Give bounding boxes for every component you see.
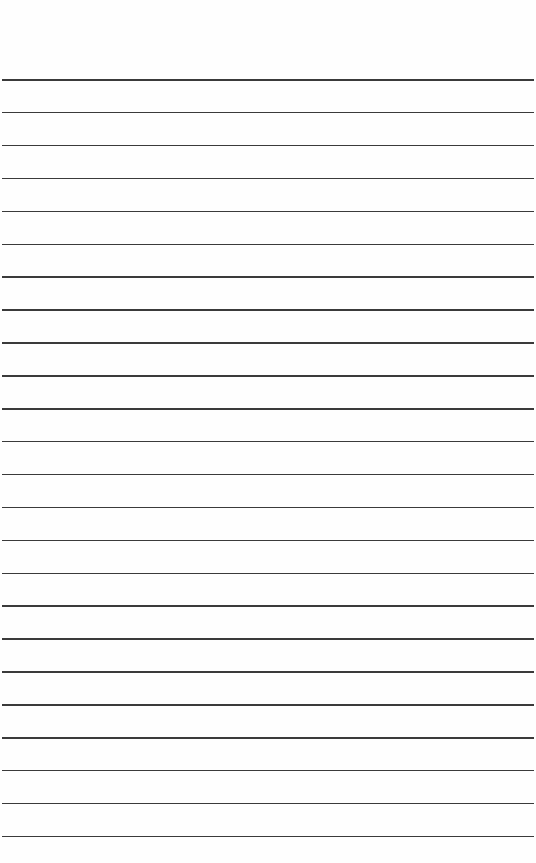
ruled-line: [2, 375, 534, 377]
ruled-line: [2, 605, 534, 607]
ruled-line: [2, 704, 534, 706]
ruled-line: [2, 178, 534, 180]
ruled-line: [2, 507, 534, 509]
ruled-line: [2, 211, 534, 213]
ruled-line: [2, 244, 534, 246]
ruled-line: [2, 737, 534, 739]
ruled-line: [2, 638, 534, 640]
ruled-line: [2, 112, 534, 114]
ruled-line: [2, 145, 534, 147]
ruled-line: [2, 79, 534, 81]
ruled-line: [2, 836, 534, 838]
ruled-line: [2, 770, 534, 772]
ruled-line: [2, 474, 534, 476]
ruled-line: [2, 276, 534, 278]
ruled-line: [2, 441, 534, 443]
ruled-line: [2, 408, 534, 410]
ruled-line: [2, 309, 534, 311]
ruled-line: [2, 803, 534, 805]
ruled-line: [2, 540, 534, 542]
lined-paper-page: [0, 0, 536, 863]
ruled-line: [2, 573, 534, 575]
ruled-line: [2, 342, 534, 344]
ruled-line: [2, 671, 534, 673]
